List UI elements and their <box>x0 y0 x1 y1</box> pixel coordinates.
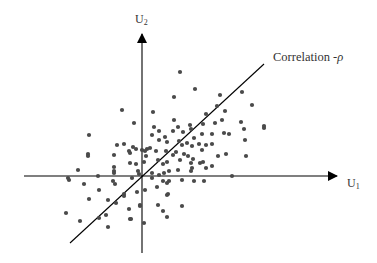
data-point <box>165 140 169 144</box>
data-point <box>178 158 182 162</box>
data-point <box>218 93 222 97</box>
data-point <box>171 129 175 133</box>
data-point <box>163 135 167 139</box>
data-point <box>222 131 226 135</box>
data-point <box>242 127 246 131</box>
data-point <box>150 133 154 137</box>
data-point <box>87 133 91 137</box>
data-point <box>167 179 171 183</box>
data-point <box>132 121 136 125</box>
data-point <box>112 153 116 157</box>
data-point <box>112 171 116 175</box>
y-axis-label: U2 <box>135 12 148 27</box>
x-axis-label: U1 <box>347 176 360 191</box>
data-point <box>156 158 160 162</box>
data-point <box>138 204 142 208</box>
data-point <box>192 136 196 140</box>
data-point <box>223 109 227 113</box>
data-point <box>129 217 133 221</box>
data-point <box>112 165 116 169</box>
data-point <box>189 161 193 165</box>
data-point <box>176 125 180 129</box>
data-point <box>210 142 214 146</box>
data-point <box>182 152 186 156</box>
data-point <box>201 160 205 164</box>
data-point <box>189 127 193 131</box>
data-point <box>262 124 266 128</box>
data-point <box>114 201 118 205</box>
data-point <box>157 138 161 142</box>
data-point <box>166 192 170 196</box>
data-point <box>67 178 71 182</box>
data-point <box>135 190 139 194</box>
data-point <box>181 130 185 134</box>
data-point <box>180 204 184 208</box>
data-point <box>165 160 169 164</box>
data-point <box>122 142 126 146</box>
data-point <box>86 154 90 158</box>
data-point <box>143 149 147 153</box>
data-point <box>106 198 110 202</box>
data-point <box>82 182 86 186</box>
data-point <box>171 153 175 157</box>
data-point <box>154 149 158 153</box>
data-point <box>174 150 178 154</box>
data-point <box>151 110 155 114</box>
data-point <box>161 209 165 213</box>
data-point <box>122 194 126 198</box>
data-point <box>177 139 181 143</box>
data-point <box>201 122 205 126</box>
data-point <box>202 179 206 183</box>
data-point <box>180 178 184 182</box>
data-point <box>204 143 208 147</box>
data-point <box>156 203 160 207</box>
data-point <box>250 103 254 107</box>
data-point <box>113 182 117 186</box>
data-point <box>104 213 108 217</box>
data-point <box>200 132 204 136</box>
data-point <box>76 168 80 172</box>
data-point <box>191 157 195 161</box>
data-point <box>172 118 176 122</box>
data-point <box>192 179 196 183</box>
data-point <box>134 147 138 151</box>
data-point <box>127 207 131 211</box>
data-point <box>155 185 159 189</box>
data-point <box>137 172 141 176</box>
data-point <box>150 171 154 175</box>
scatter-diagram <box>0 0 377 263</box>
data-point <box>128 151 132 155</box>
data-point <box>144 154 148 158</box>
data-point <box>157 129 161 133</box>
data-point <box>210 132 214 136</box>
data-point <box>227 132 231 136</box>
data-point <box>164 149 168 153</box>
data-point <box>152 125 156 129</box>
data-point <box>230 174 234 178</box>
data-point <box>188 123 192 127</box>
data-point <box>120 108 124 112</box>
data-point <box>200 148 204 152</box>
data-point <box>162 171 166 175</box>
data-point <box>190 166 194 170</box>
data-point <box>157 173 161 177</box>
data-point <box>161 179 165 183</box>
data-point <box>204 166 208 170</box>
data-point <box>78 219 82 223</box>
data-point <box>244 154 248 158</box>
data-point <box>193 87 197 91</box>
data-point <box>243 138 247 142</box>
data-point <box>186 154 190 158</box>
data-point <box>220 118 224 122</box>
data-point <box>178 70 182 74</box>
data-point <box>97 216 101 220</box>
data-point <box>172 95 176 99</box>
data-point <box>239 120 243 124</box>
data-point <box>240 90 244 94</box>
data-point <box>185 141 189 145</box>
data-point <box>128 161 132 165</box>
correlation-label: Correlation -ρ <box>273 50 343 65</box>
data-point <box>224 152 228 156</box>
data-point <box>106 225 110 229</box>
data-point <box>190 144 194 148</box>
